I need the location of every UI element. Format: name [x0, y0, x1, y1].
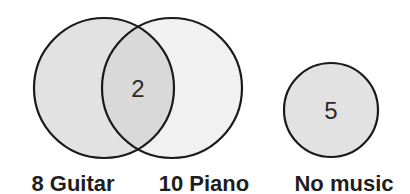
no-music-count: 5: [324, 97, 337, 124]
no-music-label: No music: [294, 171, 393, 194]
venn-diagram: 2 5 8 Guitar 10 Piano No music: [0, 0, 410, 194]
piano-label: 10 Piano: [159, 171, 249, 194]
guitar-label: 8 Guitar: [31, 171, 115, 194]
intersection-count: 2: [131, 75, 144, 102]
